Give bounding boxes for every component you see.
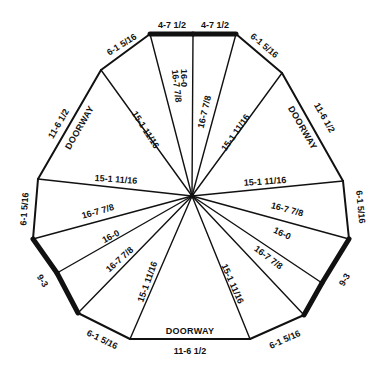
- spoke-line: [192, 34, 193, 196]
- spoke-length-label: 16-7 7/8: [270, 200, 304, 218]
- doorway-label: DOORWAY: [166, 326, 215, 336]
- wall-length-label: 4-7 1/2: [201, 20, 229, 30]
- wall-length-label: 6-1 5/16: [105, 31, 138, 57]
- spoke-length-label: 15-1 11/16: [135, 260, 159, 303]
- wall-edge: [38, 70, 101, 179]
- spoke-length-label: 16-7 7/8: [196, 95, 213, 129]
- radial-spokes: [33, 34, 349, 339]
- wall-length-label: 11-6 1/2: [174, 346, 207, 356]
- wall-length-label: 6-1 5/16: [249, 31, 281, 60]
- window-wall-edge: [33, 239, 57, 273]
- wall-length-label: 6-1 5/16: [18, 192, 30, 226]
- wall-length-label: 9-3: [337, 272, 352, 288]
- spoke-length-label: 15-1 11/16: [243, 175, 286, 188]
- spoke-length-label: 15-1 11/16: [219, 262, 245, 305]
- window-wall-edge: [304, 283, 322, 315]
- center-point: [190, 194, 195, 199]
- wall-edge: [343, 181, 349, 239]
- wall-length-label: 11-6 1/2: [312, 101, 337, 134]
- wall-length-label: 11-6 1/2: [46, 107, 71, 140]
- spoke-line: [130, 196, 192, 339]
- spoke-line: [192, 196, 349, 239]
- perimeter-edges: [33, 34, 349, 339]
- wall-length-label: 6-1 5/16: [354, 190, 367, 224]
- spoke-length-label: 16-0: [272, 225, 293, 242]
- floor-plan-diagram: 16-7 7/815-1 11/1615-1 11/1616-7 7/816-0…: [0, 0, 379, 374]
- spoke-line: [150, 34, 192, 196]
- wall-edge: [33, 179, 38, 239]
- wall-length-label: 6-1 5/16: [268, 328, 302, 351]
- wall-length-label: 9-3: [35, 273, 50, 289]
- wall-length-label: 4-7 1/2: [158, 20, 186, 30]
- window-wall-edge: [57, 273, 78, 313]
- spoke-length-label: 15-1 11/16: [94, 173, 137, 186]
- spoke-length-label: 15-1 11/16: [130, 109, 162, 150]
- spoke-length-label: 15-1 11/16: [219, 112, 252, 153]
